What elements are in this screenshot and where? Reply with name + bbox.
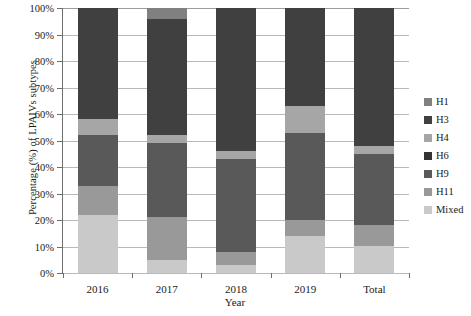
bar-segment-H11[interactable] [78, 186, 118, 215]
bar-segment-H3[interactable] [354, 8, 394, 146]
bar-segment-H4[interactable] [147, 135, 187, 143]
y-axis-tick [57, 114, 63, 115]
bar-segment-H11[interactable] [354, 225, 394, 246]
bar-2016[interactable] [78, 8, 118, 273]
x-axis-tick [340, 273, 341, 278]
bar-segment-H4[interactable] [216, 151, 256, 159]
bar-segment-H4[interactable] [285, 106, 325, 133]
x-axis-tick [271, 273, 272, 278]
legend-swatch-icon [424, 98, 432, 106]
legend-item-Mixed[interactable]: Mixed [424, 201, 471, 219]
bar-segment-H3[interactable] [147, 19, 187, 136]
x-axis-tick-label-2018: 2018 [225, 283, 247, 295]
y-axis-tick [57, 88, 63, 89]
bar-segment-H9[interactable] [147, 143, 187, 217]
x-axis-tick-label-2016: 2016 [87, 283, 109, 295]
bar-segment-Mixed[interactable] [216, 265, 256, 273]
legend-swatch-icon [424, 206, 432, 214]
y-axis-tick [57, 8, 63, 9]
y-axis-tick-label: 60% [35, 109, 54, 120]
x-axis-tick [132, 273, 133, 278]
y-axis-tick [57, 167, 63, 168]
y-axis-tick-label: 80% [35, 56, 54, 67]
y-axis-tick [57, 247, 63, 248]
bar-segment-H9[interactable] [285, 133, 325, 220]
legend-item-H9[interactable]: H9 [424, 165, 471, 183]
bar-2019[interactable] [285, 8, 325, 273]
bar-segment-H11[interactable] [285, 220, 325, 236]
bar-segment-Mixed[interactable] [354, 246, 394, 273]
legend-item-H6[interactable]: H6 [424, 147, 471, 165]
legend-swatch-icon [424, 152, 432, 160]
bar-segment-H11[interactable] [216, 252, 256, 265]
bar-segment-H4[interactable] [78, 119, 118, 135]
legend-item-label: H3 [436, 115, 449, 126]
x-axis-tick-label-2019: 2019 [294, 283, 316, 295]
y-axis-tick-label: 40% [35, 162, 54, 173]
bar-segment-H11[interactable] [147, 217, 187, 259]
legend-item-H11[interactable]: H11 [424, 183, 471, 201]
y-axis-tick-label: 0% [40, 268, 54, 279]
bar-segment-Mixed[interactable] [147, 260, 187, 273]
legend-item-label: H9 [436, 169, 449, 180]
x-axis-tick [201, 273, 202, 278]
bar-segment-Mixed[interactable] [285, 236, 325, 273]
y-axis-tick [57, 220, 63, 221]
legend-swatch-icon [424, 116, 432, 124]
legend-item-label: H4 [436, 133, 449, 144]
legend-item-H4[interactable]: H4 [424, 129, 471, 147]
legend-item-label: H1 [436, 97, 449, 108]
x-axis-tick [63, 273, 64, 278]
x-axis-tick-label-Total: Total [363, 283, 385, 295]
y-axis-tick-label: 10% [35, 241, 54, 252]
bar-segment-Mixed[interactable] [78, 215, 118, 273]
bar-segment-H4[interactable] [354, 146, 394, 154]
y-axis-tick [57, 35, 63, 36]
y-axis-tick [57, 141, 63, 142]
bar-Total[interactable] [354, 8, 394, 273]
legend-item-label: H11 [436, 187, 454, 198]
x-axis-title: Year [62, 296, 408, 308]
bar-2018[interactable] [216, 8, 256, 273]
bar-2017[interactable] [147, 8, 187, 273]
bar-segment-H1[interactable] [147, 8, 187, 19]
bar-segment-H9[interactable] [78, 135, 118, 185]
y-axis-tick [57, 61, 63, 62]
y-axis-tick [57, 194, 63, 195]
bar-segment-H9[interactable] [216, 159, 256, 252]
y-axis-tick-label: 70% [35, 82, 54, 93]
chart-legend: H1H3H4H6H9H11Mixed [424, 93, 471, 219]
legend-swatch-icon [424, 188, 432, 196]
gridline [63, 273, 409, 274]
y-axis-tick-label: 100% [30, 3, 55, 14]
bar-segment-H3[interactable] [78, 8, 118, 119]
y-axis-tick-label: 90% [35, 29, 54, 40]
x-axis-tick [409, 273, 410, 278]
legend-item-H3[interactable]: H3 [424, 111, 471, 129]
bar-segment-H3[interactable] [216, 8, 256, 151]
y-axis-tick-label: 30% [35, 188, 54, 199]
y-axis-tick-label: 50% [35, 135, 54, 146]
plot-area: 0%10%20%30%40%50%60%70%80%90%100%2016201… [62, 8, 409, 274]
x-axis-tick-label-2017: 2017 [156, 283, 178, 295]
legend-item-H1[interactable]: H1 [424, 93, 471, 111]
legend-item-label: Mixed [436, 205, 463, 216]
legend-swatch-icon [424, 170, 432, 178]
legend-item-label: H6 [436, 151, 449, 162]
bar-segment-H9[interactable] [354, 154, 394, 226]
stacked-bar-chart: Percentage (%) of LPAIVs subtypes 0%10%2… [0, 0, 471, 316]
bar-segment-H3[interactable] [285, 8, 325, 106]
legend-swatch-icon [424, 134, 432, 142]
y-axis-tick-label: 20% [35, 215, 54, 226]
